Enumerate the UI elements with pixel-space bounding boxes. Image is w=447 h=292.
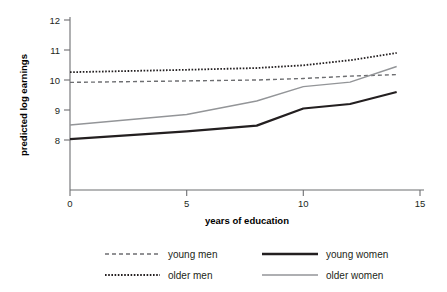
x-tick-label-10: 10 (298, 198, 309, 209)
y-tick-label-8: 8 (55, 135, 60, 146)
legend-label-young-women: young women (326, 249, 388, 260)
x-tick-label-15: 15 (415, 198, 426, 209)
y-tick-label-12: 12 (49, 15, 60, 26)
y-axis-title: predicted log earnings (18, 54, 29, 156)
y-tick-label-9: 9 (55, 105, 60, 116)
x-tick-label-5: 5 (184, 198, 189, 209)
legend-label-older-men: older men (168, 270, 212, 281)
legend-label-older-women: older women (326, 270, 383, 281)
y-tick-label-10: 10 (49, 75, 60, 86)
x-tick-label-0: 0 (67, 198, 72, 209)
legend-label-young-men: young men (168, 249, 217, 260)
chart-figure: 12 11 10 9 8 0 5 10 15 years of educatio… (0, 0, 447, 292)
x-axis-title: years of education (205, 215, 289, 226)
y-tick-label-11: 11 (50, 45, 60, 56)
